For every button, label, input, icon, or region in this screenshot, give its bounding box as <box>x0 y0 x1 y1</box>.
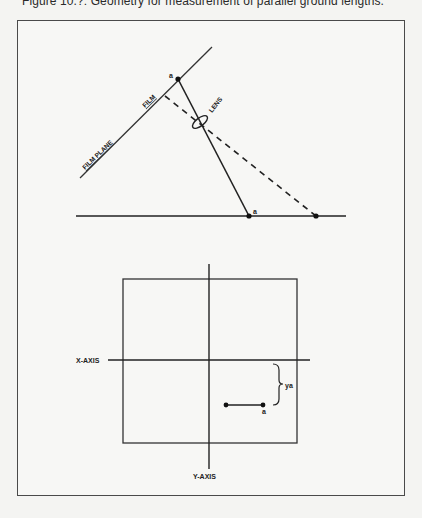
photo-frame <box>123 279 297 443</box>
ya-label: ya <box>285 382 293 390</box>
ground-point-label: a <box>253 208 257 215</box>
ground-point-a <box>246 213 251 218</box>
lens-label: LENS <box>207 95 224 113</box>
geometry-figure: a a FILM PLANE FILM LENS X-AXIS Y-AXIS y… <box>0 0 422 518</box>
segment-start-point <box>224 403 229 408</box>
segment-point-a <box>261 403 266 408</box>
solid-ray <box>178 79 249 216</box>
film-plane-line <box>80 47 212 178</box>
top-diagram: a a FILM PLANE FILM LENS <box>76 47 346 219</box>
x-axis-label: X-AXIS <box>76 357 100 364</box>
film-point <box>175 76 180 81</box>
y-axis-label: Y-AXIS <box>193 473 216 480</box>
film-point-label: a <box>169 72 173 79</box>
bottom-diagram: X-AXIS Y-AXIS ya a <box>76 264 310 480</box>
ground-point-dashed <box>313 213 318 218</box>
ya-brace <box>273 364 283 405</box>
film-plane-label: FILM PLANE <box>81 138 114 171</box>
segment-point-label: a <box>262 408 266 415</box>
film-label: FILM <box>141 93 157 109</box>
